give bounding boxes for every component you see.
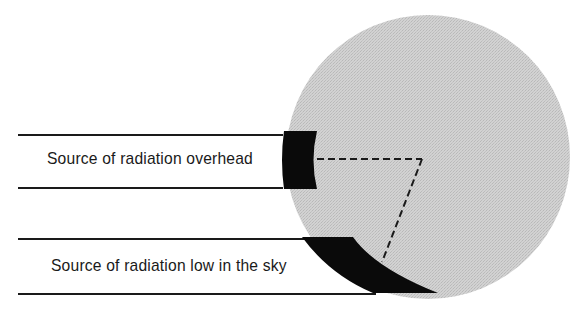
overhead-source-label: Source of radiation overhead	[47, 149, 253, 169]
overhead-absorption-band	[282, 131, 317, 189]
low-source-label: Source of radiation low in the sky	[51, 256, 287, 276]
